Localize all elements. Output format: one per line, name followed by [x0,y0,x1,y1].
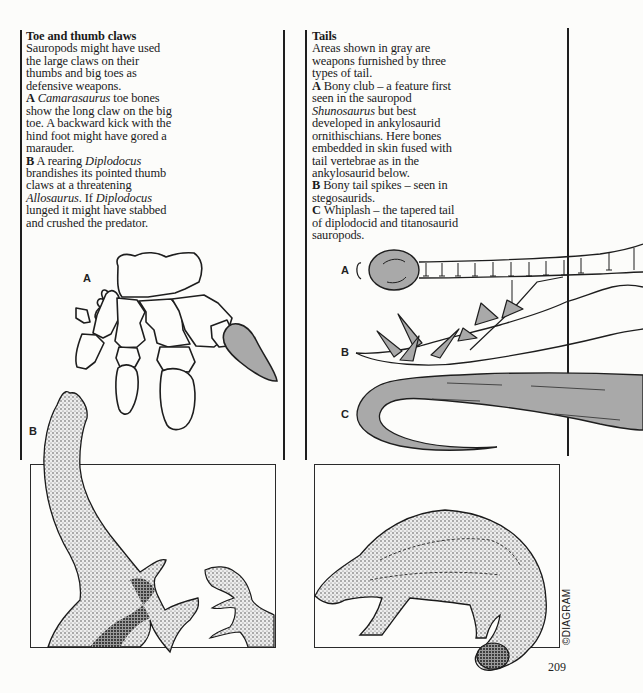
copyright-notice: ©DIAGRAM [561,589,572,645]
ankylosaurid-illustration [0,0,643,693]
ankylosaurid [315,510,546,670]
page-number: 209 [548,660,566,675]
tail-club-ankylosaur [477,643,509,669]
